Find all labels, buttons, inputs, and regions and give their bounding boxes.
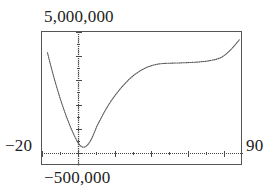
plot-canvas xyxy=(42,32,243,166)
y-axis-max-label: 5,000,000 xyxy=(44,8,114,25)
chart-screenshot: 5,000,000 −500,000 −20 90 xyxy=(0,0,280,195)
x-axis-max-label: 90 xyxy=(246,137,263,154)
plot-frame xyxy=(41,31,242,165)
x-axis-min-label: −20 xyxy=(5,137,32,154)
y-axis-min-label: −500,000 xyxy=(44,169,110,186)
